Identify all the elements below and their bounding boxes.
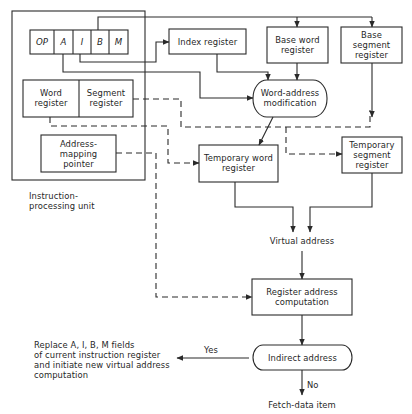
bsr-line3: register [341, 50, 402, 60]
bsr-line1: Base [341, 30, 402, 40]
word-register-line1: Word [23, 88, 79, 98]
wam-line2: modification [253, 98, 327, 108]
rac-line2: computation [252, 297, 352, 307]
replace-line2: of current instruction register [34, 350, 184, 360]
field-a: A [54, 30, 73, 54]
segment-register-label: Segment register [79, 88, 133, 108]
tsr-line1: Temporary [342, 140, 402, 150]
instruction-processing-unit-label: Instruction- processing unit [29, 191, 139, 211]
base-segment-register-label: Base segment register [341, 30, 402, 60]
fetch-data-item-label: Fetch-data item [252, 400, 352, 410]
index-register-label: Index register [169, 37, 246, 47]
wam-line1: Word-address [253, 88, 327, 98]
ipu-line2: processing unit [29, 201, 139, 211]
bsr-line2: segment [341, 40, 402, 50]
twr-line2: register [199, 163, 278, 173]
base-word-register-label: Base word register [267, 35, 328, 55]
field-b: B [91, 30, 109, 54]
address-mapping-pointer-label: Address- mapping pointer [41, 139, 116, 169]
word-address-modification-label: Word-address modification [253, 88, 327, 108]
ipu-line1: Instruction- [29, 191, 139, 201]
amp-line1: Address- [41, 139, 116, 149]
segment-register-line1: Segment [79, 88, 133, 98]
no-label: No [307, 380, 337, 390]
word-register-label: Word register [23, 88, 79, 108]
replace-line3: and initiate new virtual address [34, 360, 184, 370]
virtual-address-label: Virtual address [252, 236, 352, 246]
field-op: OP [30, 30, 54, 54]
register-address-computation-label: Register address computation [252, 287, 352, 307]
rac-line1: Register address [252, 287, 352, 297]
indirect-address-label: Indirect address [253, 353, 352, 363]
field-m: M [109, 30, 128, 54]
temporary-word-register-label: Temporary word register [199, 153, 278, 173]
field-i: I [73, 30, 91, 54]
word-register-line2: register [23, 98, 79, 108]
bwr-line2: register [267, 45, 328, 55]
tsr-line2: segment [342, 150, 402, 160]
temporary-segment-register-label: Temporary segment register [342, 140, 402, 170]
segment-register-line2: register [79, 98, 133, 108]
tsr-line3: register [342, 160, 402, 170]
yes-label: Yes [196, 345, 226, 355]
bwr-line1: Base word [267, 35, 328, 45]
replace-line1: Replace A, I, B, M fields [34, 340, 184, 350]
replace-fields-note: Replace A, I, B, M fields of current ins… [34, 340, 184, 380]
amp-line3: pointer [41, 159, 116, 169]
twr-line1: Temporary word [199, 153, 278, 163]
replace-line4: computation [34, 370, 184, 380]
amp-line2: mapping [41, 149, 116, 159]
